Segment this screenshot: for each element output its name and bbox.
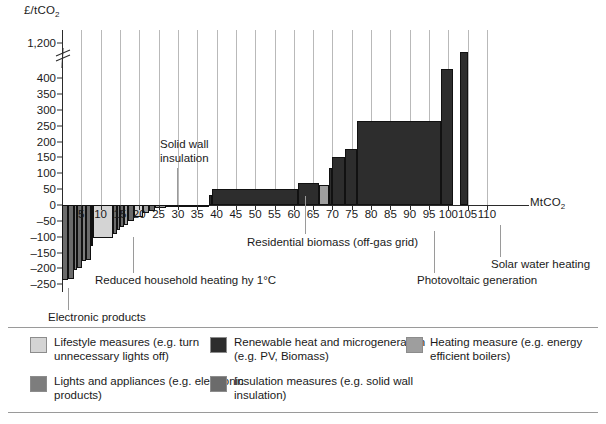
y-axis-tick-mark — [57, 94, 62, 95]
y-axis-tick: –100 — [30, 231, 56, 243]
x-axis-tick-mark — [313, 205, 314, 210]
y-axis-tick-mark — [57, 205, 62, 206]
x-axis-tick-mark — [197, 205, 198, 210]
legend-item-insulation[interactable]: Insulation measures (e.g. solid wall ins… — [210, 375, 429, 402]
x-axis-tick-mark — [217, 205, 218, 210]
x-axis-tick-mark — [487, 205, 488, 210]
y-axis-tick: 100 — [37, 167, 56, 179]
bar-renewable — [298, 183, 320, 205]
x-axis-tick-mark — [352, 205, 353, 210]
x-axis-tick-mark — [236, 205, 237, 210]
annotation-label: Electronic products — [48, 311, 146, 325]
x-axis-tick-mark — [255, 205, 256, 210]
y-axis-tick-mark — [57, 252, 62, 253]
legend-swatch-heating — [406, 337, 423, 353]
legend-label: Renewable heat and microgeneration (e.g.… — [234, 336, 429, 363]
y-axis-tick: –50 — [37, 215, 56, 227]
x-axis-tick-mark — [468, 205, 469, 210]
annotation-label: Reduced household heating hy 1°C — [95, 274, 276, 288]
x-axis-tick-mark — [139, 205, 140, 210]
x-axis-tick-mark — [101, 205, 102, 210]
bar-heating — [319, 185, 329, 205]
x-axis-tick-mark — [390, 205, 391, 210]
x-axis-tick-mark — [81, 205, 82, 210]
annotation-label: Residential biomass (off-gas grid) — [247, 236, 418, 250]
y-axis-tick: 1,200 — [27, 37, 56, 49]
y-axis-tick: –150 — [30, 247, 56, 259]
y-axis-tick-mark — [57, 43, 62, 44]
legend-swatch-renewable — [210, 337, 227, 353]
legend-swatch-lights-appliances — [30, 376, 47, 392]
bar-renewable — [357, 121, 441, 205]
x-axis-tick-mark — [159, 205, 160, 210]
y-axis-tick-mark — [57, 173, 62, 174]
y-axis-tick: 400 — [37, 72, 56, 84]
bar-renewable — [441, 69, 453, 205]
annotation-leader-line — [434, 231, 435, 273]
legend-item-heating[interactable]: Heating measure (e.g. energy efficient b… — [406, 336, 600, 363]
y-axis-tick: 350 — [37, 88, 56, 100]
x-axis-title: MtCO2 — [530, 196, 565, 211]
x-axis-tick-mark — [294, 205, 295, 210]
y-axis-tick-mark — [57, 236, 62, 237]
y-axis-tick: 300 — [37, 104, 56, 116]
legend-divider-bottom — [8, 412, 598, 413]
bar-renewable — [332, 157, 344, 205]
annotation-leader-line — [305, 196, 306, 234]
bar-renewable — [212, 189, 298, 205]
x-axis-tick-mark — [178, 205, 179, 210]
x-axis-tick-mark — [371, 205, 372, 210]
annotation-leader-line — [177, 168, 178, 205]
x-axis-tick-mark — [410, 205, 411, 210]
y-axis-tick: 250 — [37, 120, 56, 132]
x-axis-tick-mark — [332, 205, 333, 210]
y-axis-tick-mark — [57, 189, 62, 190]
annotation-label: Photovoltaic generation — [417, 274, 537, 288]
legend-item-renewable[interactable]: Renewable heat and microgeneration (e.g.… — [210, 336, 429, 363]
y-axis-tick-mark — [57, 125, 62, 126]
y-axis-tick-mark — [57, 284, 62, 285]
x-axis-tick-mark — [448, 205, 449, 210]
legend-label: Heating measure (e.g. energy efficient b… — [430, 336, 600, 363]
annotation-leader-line — [133, 237, 134, 273]
y-axis-tick-mark — [57, 109, 62, 110]
bar-insulation — [166, 205, 209, 207]
annotation-label: Solar water heating — [491, 258, 590, 272]
y-axis-tick-mark — [57, 220, 62, 221]
y-axis-tick: 200 — [37, 136, 56, 148]
y-axis-tick: –250 — [30, 278, 56, 290]
legend-swatch-insulation — [210, 376, 227, 392]
x-axis-tick-mark — [275, 205, 276, 210]
legend-divider-top — [8, 327, 598, 328]
y-axis-tick-mark — [57, 141, 62, 142]
annotation-leader-line — [68, 288, 69, 310]
bar-renewable — [345, 149, 357, 205]
annotation-label: Solid wallinsulation — [160, 138, 209, 165]
y-axis-tick: 50 — [43, 183, 56, 195]
x-axis-tick-mark — [429, 205, 430, 210]
y-axis-tick-mark — [57, 268, 62, 269]
y-axis-tick-mark — [57, 157, 62, 158]
legend-swatch-lifestyle — [30, 337, 47, 353]
y-axis-tick: 0 — [50, 199, 56, 211]
y-axis-tick: 150 — [37, 151, 56, 163]
bar-renewable — [460, 52, 468, 205]
legend-label: Insulation measures (e.g. solid wall ins… — [234, 375, 429, 402]
x-axis-tick-mark — [120, 205, 121, 210]
chart-legend: Lifestyle measures (e.g. turn unnecessar… — [8, 336, 600, 410]
y-axis-tick-mark — [57, 78, 62, 79]
y-axis-tick: –200 — [30, 262, 56, 274]
annotation-leader-line — [500, 225, 501, 257]
chart-page: £/tCO2 MtCO2 1,2004003503002502001501005… — [0, 0, 606, 424]
